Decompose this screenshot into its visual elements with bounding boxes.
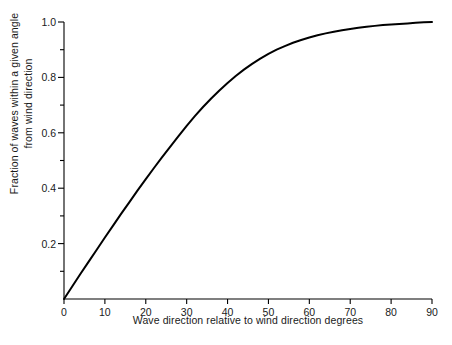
y-tick-label: 0.2	[24, 238, 56, 250]
x-tick-label: 40	[222, 306, 234, 318]
x-tick-label: 80	[385, 306, 397, 318]
y-axis-title-line-2: from wind direction	[21, 0, 35, 229]
x-tick-label: 90	[426, 306, 438, 318]
y-tick-label: 0.8	[24, 71, 56, 83]
data-curve	[64, 22, 432, 299]
x-axis-title: Wave direction relative to wind directio…	[64, 314, 432, 326]
x-tick-label: 70	[344, 306, 356, 318]
y-axis-title: Fraction of waves within a given angle f…	[8, 0, 35, 229]
y-tick-label: 1.0	[24, 16, 56, 28]
x-tick-label: 50	[263, 306, 275, 318]
chart-figure: Fraction of waves within a given angle f…	[0, 0, 452, 345]
x-tick-label: 10	[99, 306, 111, 318]
y-tick-label: 0.6	[24, 127, 56, 139]
x-tick-label: 60	[303, 306, 315, 318]
x-tick-label: 0	[61, 306, 67, 318]
y-tick-label: 0.4	[24, 182, 56, 194]
plot-area	[0, 0, 452, 345]
tick-marks	[58, 22, 432, 304]
y-axis-title-line-1: Fraction of waves within a given angle	[8, 0, 22, 229]
x-tick-label: 30	[181, 306, 193, 318]
axes	[64, 22, 432, 299]
x-tick-label: 20	[140, 306, 152, 318]
